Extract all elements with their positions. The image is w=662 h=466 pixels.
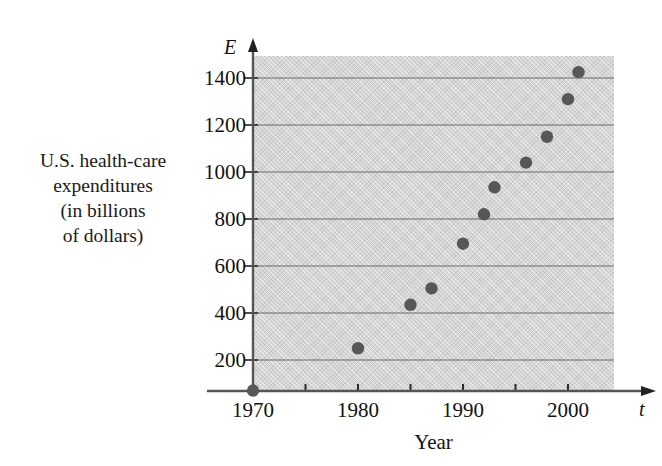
x-tick-labels: 1970198019902000 — [0, 0, 662, 466]
y-axis-symbol: E — [224, 36, 236, 59]
x-tick-label-1990: 1990 — [418, 400, 508, 421]
x-axis-title: Year — [253, 430, 614, 455]
x-tick-label-1980: 1980 — [313, 400, 403, 421]
x-tick-label-1970: 1970 — [208, 400, 298, 421]
x-axis-symbol: t — [639, 398, 645, 421]
scatter-plot-figure: U.S. health-care expenditures (in billio… — [0, 0, 662, 466]
x-tick-label-2000: 2000 — [523, 400, 613, 421]
